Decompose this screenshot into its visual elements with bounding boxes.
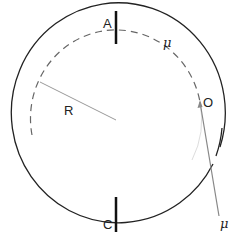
pointer-line — [200, 102, 219, 216]
label-o: O — [203, 95, 213, 110]
label-mu-bottom: μ — [220, 216, 228, 231]
radius-line — [40, 82, 116, 120]
label-r: R — [64, 103, 73, 118]
outer-circle — [11, 3, 225, 223]
arrowhead-icon — [198, 100, 203, 108]
label-c: C — [103, 217, 112, 232]
diagram-canvas: A C O R μ μ — [0, 0, 236, 238]
label-a: A — [103, 16, 112, 31]
label-mu-top: μ — [163, 35, 171, 50]
dashed-path-faint — [192, 102, 202, 160]
